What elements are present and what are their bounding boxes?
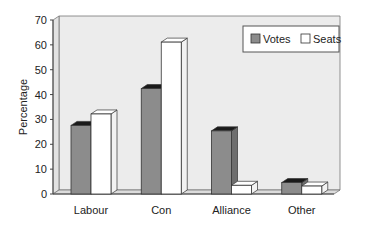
bar-side [111, 110, 117, 194]
x-category-label: Other [288, 204, 316, 216]
y-tick-label: 40 [35, 89, 47, 101]
bar-votes-con [141, 89, 161, 194]
y-axis-label: Percentage [17, 79, 29, 135]
legend-label-seats: Seats [313, 33, 342, 45]
x-category-label: Labour [74, 204, 109, 216]
bar-votes-labour [71, 125, 91, 194]
y-tick-label: 50 [35, 64, 47, 76]
legend-swatch-votes [251, 34, 260, 43]
bar-chart: 010203040506070 LabourConAllianceOther P… [0, 0, 376, 227]
y-tick-label: 60 [35, 39, 47, 51]
bar-seats-alliance [232, 185, 252, 194]
bar-side [181, 38, 187, 194]
x-category-label: Con [151, 204, 171, 216]
x-category-label: Alliance [212, 204, 251, 216]
bar-votes-alliance [212, 131, 232, 194]
legend-swatch-seats [301, 34, 310, 43]
bar-votes-other [282, 183, 302, 194]
y-tick-label: 0 [41, 188, 47, 200]
bar-seats-other [302, 186, 322, 194]
y-tick-label: 30 [35, 113, 47, 125]
y-tick-label: 10 [35, 163, 47, 175]
y-tick-label: 20 [35, 138, 47, 150]
bar-seats-labour [91, 114, 111, 194]
bar-seats-con [161, 42, 181, 194]
legend: Votes Seats [243, 26, 342, 52]
legend-label-votes: Votes [263, 33, 291, 45]
y-tick-label: 70 [35, 14, 47, 26]
x-axis-labels: LabourConAllianceOther [74, 204, 316, 216]
